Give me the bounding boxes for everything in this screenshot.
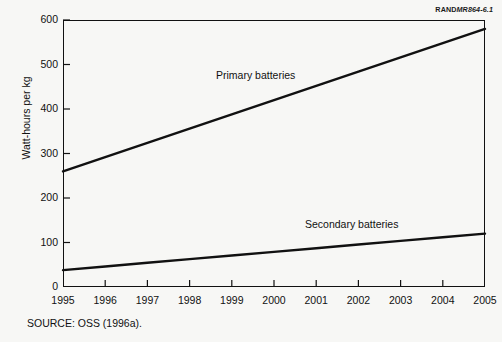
x-tick-label: 1997 bbox=[125, 295, 169, 306]
x-tick-label: 2005 bbox=[463, 295, 502, 306]
x-tick-label: 2003 bbox=[379, 295, 423, 306]
x-axis-tick-labels: 1995199619971998199920002001200220032004… bbox=[0, 0, 502, 342]
x-tick-label: 1995 bbox=[41, 295, 85, 306]
x-tick-label: 2004 bbox=[421, 295, 465, 306]
x-tick-label: 1999 bbox=[210, 295, 254, 306]
x-tick-label: 2001 bbox=[294, 295, 338, 306]
figure-container: RANDMR864-6.1 0100200300400500600 Watt-h… bbox=[0, 0, 502, 342]
source-note: SOURCE: OSS (1996a). bbox=[27, 317, 142, 329]
x-tick-label: 2000 bbox=[252, 295, 296, 306]
x-tick-label: 1996 bbox=[83, 295, 127, 306]
x-tick-label: 2002 bbox=[336, 295, 380, 306]
series-label-secondary-batteries: Secondary batteries bbox=[305, 218, 398, 230]
series-label-primary-batteries: Primary batteries bbox=[216, 69, 295, 81]
x-tick-label: 1998 bbox=[168, 295, 212, 306]
